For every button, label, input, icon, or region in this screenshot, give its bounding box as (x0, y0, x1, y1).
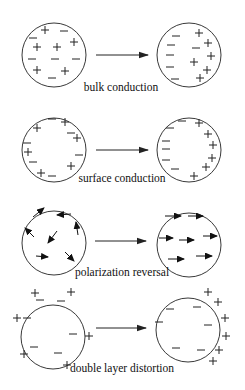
plus-charge-icon (195, 29, 203, 37)
plus-charge-icon (190, 58, 198, 66)
dipole-arrow-icon (48, 231, 57, 243)
plus-charge-icon (202, 163, 210, 171)
mechanism-label: surface conduction (78, 172, 165, 184)
plus-charge-icon (203, 66, 211, 74)
plus-charge-icon (73, 134, 81, 142)
plus-charge-icon (215, 346, 223, 354)
particle-circle (21, 305, 85, 369)
dipole-arrow-icon (33, 208, 44, 217)
particle-before (13, 288, 93, 369)
plus-charge-icon (85, 332, 93, 340)
particle-before (22, 208, 86, 275)
plus-charge-icon (190, 172, 198, 180)
plus-charge-icon (67, 288, 75, 296)
plus-charge-icon (67, 162, 75, 170)
plus-charge-icon (221, 314, 229, 322)
plus-charge-icon (204, 39, 212, 47)
particle-circle (22, 23, 86, 87)
plus-charge-icon (222, 332, 230, 340)
mechanism-label: double layer distortion (70, 362, 174, 375)
mechanism-label: bulk conduction (84, 81, 159, 93)
dipole-arrow-icon (25, 228, 34, 237)
relaxation-mechanisms-diagram: bulk conduction surface conduction polar… (0, 0, 245, 390)
plus-charge-icon (20, 350, 28, 358)
plus-charge-icon (33, 66, 41, 74)
row-surface-conduction: surface conduction (22, 118, 221, 184)
row-bulk-conduction: bulk conduction (22, 23, 221, 93)
plus-charge-icon (61, 67, 69, 75)
dipole-arrow-icon (65, 252, 74, 261)
row-polarization-reversal: polarization reversal (22, 208, 221, 279)
particle-circle (22, 118, 86, 182)
plus-charge-icon (204, 288, 212, 296)
plus-charge-icon (196, 74, 204, 82)
plus-charge-icon (204, 130, 212, 138)
plus-charge-icon (13, 314, 21, 322)
dipole-arrow-icon (76, 222, 78, 235)
particle-before (22, 118, 86, 182)
plus-charge-icon (207, 52, 215, 60)
plus-charge-icon (53, 43, 61, 51)
plus-charge-icon (31, 289, 39, 297)
plus-charge-icon (209, 141, 217, 149)
plus-charge-icon (214, 298, 222, 306)
particle-circle (156, 298, 220, 362)
plus-charge-icon (41, 26, 49, 34)
particle-after (155, 288, 230, 365)
dipole-arrow-icon (36, 256, 48, 257)
plus-charge-icon (33, 43, 41, 51)
plus-charge-icon (37, 169, 45, 177)
mechanism-label: polarization reversal (75, 266, 169, 279)
plus-charge-icon (208, 154, 216, 162)
particle-after (157, 23, 221, 87)
particle-after (157, 118, 221, 182)
plus-charge-icon (24, 148, 32, 156)
plus-charge-icon (209, 357, 217, 365)
particle-before (22, 23, 86, 87)
row-double-layer-distortion: double layer distortion (13, 288, 230, 375)
plus-charge-icon (70, 38, 78, 46)
